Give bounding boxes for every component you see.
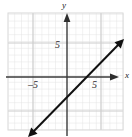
coordinate-plane-figure: y x 5 –5 5 bbox=[0, 0, 132, 137]
y-axis-label: y bbox=[62, 1, 66, 10]
graph-canvas bbox=[0, 0, 132, 137]
x-tick-label-minus-5: –5 bbox=[28, 80, 38, 90]
y-tick-label-5: 5 bbox=[55, 40, 60, 50]
x-tick-label-5: 5 bbox=[92, 80, 97, 90]
x-axis-label: x bbox=[125, 71, 129, 80]
grid-minor bbox=[9, 13, 124, 130]
